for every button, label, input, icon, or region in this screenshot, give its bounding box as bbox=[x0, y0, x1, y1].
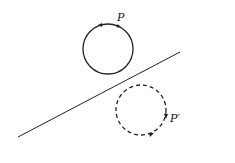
point-p-prime-label: P′ bbox=[169, 112, 180, 125]
point-p-label: P bbox=[116, 11, 125, 24]
mirror-line bbox=[18, 52, 180, 137]
original-circle bbox=[83, 24, 133, 74]
direction-arrow-icon bbox=[149, 133, 154, 137]
reflected-circle bbox=[116, 85, 166, 135]
reflection-diagram: P P′ bbox=[0, 0, 235, 163]
point-p-marker bbox=[116, 24, 119, 27]
